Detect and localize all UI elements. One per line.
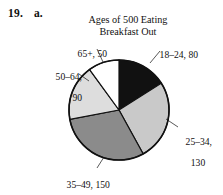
figure-page: 19. a. Ages of 500 Eating Breakfast Out … bbox=[0, 0, 223, 195]
slice-label-25-34: 25–34, 130 bbox=[176, 127, 220, 189]
slice-label-65plus-line-1: 65+, 50 bbox=[78, 48, 107, 59]
slice-label-50-64-line-1: 50–64, bbox=[56, 71, 82, 82]
slice-label-50-64-line-2: 90 bbox=[34, 93, 82, 103]
slice-label-18-24: 18–24, 80 bbox=[150, 40, 198, 71]
slice-label-18-24-line-1: 18–24, 80 bbox=[160, 49, 198, 60]
slice-label-35-49-line-1: 35–49, 150 bbox=[67, 179, 110, 190]
slice-label-35-49: 35–49, 150 bbox=[57, 170, 110, 195]
slice-label-25-34-line-2: 130 bbox=[176, 158, 220, 168]
slice-label-50-64: 50–64, 90 bbox=[34, 62, 82, 124]
slice-label-25-34-line-1: 25–34, bbox=[186, 136, 212, 147]
leader-line-35-49 bbox=[97, 157, 104, 168]
